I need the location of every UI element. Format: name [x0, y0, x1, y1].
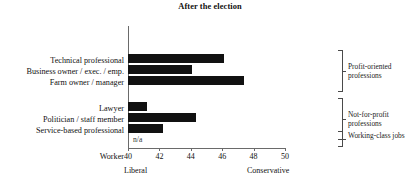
x-axis-line: [128, 148, 285, 149]
y-label-service-based-professional: Service-based professional: [0, 126, 124, 135]
y-label-lawyer: Lawyer: [0, 104, 124, 113]
x-tick-label-46: 46: [210, 152, 234, 161]
chart-title: After the election: [0, 2, 420, 11]
axis-anchor-liberal: Liberal: [124, 166, 147, 175]
bracket-stem: [343, 71, 346, 72]
y-label-politician: Politician / staff member: [0, 115, 124, 124]
x-tick-label-40: 40: [116, 152, 140, 161]
axis-anchor-conservative: Conservative: [247, 166, 289, 175]
y-label-business-owner: Business owner / exec. / emp.: [0, 67, 124, 76]
y-label-technical-professional: Technical professional: [0, 56, 124, 65]
x-tick-label-48: 48: [242, 152, 266, 161]
bar-value-na-worker: n/a: [133, 135, 142, 144]
plot-area: 40 42 44 46 48 50 n/a: [128, 26, 285, 148]
x-tick-mark-46: [222, 148, 223, 151]
chart-figure: After the election Technical professiona…: [0, 0, 420, 194]
bar-technical-professional: [128, 54, 224, 63]
bar-business-owner: [128, 65, 192, 74]
bracket-label-working-class: Working-class jobs: [348, 131, 420, 140]
y-axis-labels: Technical professional Business owner / …: [0, 26, 124, 148]
bar-row-worker: n/a: [128, 135, 285, 144]
x-tick-mark-50: [285, 148, 286, 151]
x-tick-mark-44: [191, 148, 192, 151]
x-tick-mark-40: [128, 148, 129, 151]
bar-service-based-professional: [128, 124, 163, 133]
bar-politician: [128, 113, 196, 122]
y-label-worker: Worker: [0, 152, 124, 161]
x-tick-label-42: 42: [147, 152, 171, 161]
bracket-stem: [343, 119, 346, 120]
group-brackets: Profit-oriented professions Not-for-prof…: [338, 26, 420, 148]
x-tick-mark-48: [254, 148, 255, 151]
bracket-group-working-class: Working-class jobs: [338, 131, 420, 147]
y-label-farm-owner: Farm owner / manager: [0, 78, 124, 87]
bracket-group-profit-oriented: Profit-oriented professions: [338, 50, 420, 92]
bracket-label-profit-oriented: Profit-oriented professions: [348, 62, 420, 80]
x-tick-label-44: 44: [179, 152, 203, 161]
x-tick-mark-42: [159, 148, 160, 151]
bracket-label-not-for-profit: Not-for-profit professions: [348, 110, 420, 128]
x-tick-label-50: 50: [273, 152, 297, 161]
bracket-stem: [343, 139, 346, 140]
bar-farm-owner: [128, 76, 244, 85]
bar-lawyer: [128, 102, 147, 111]
